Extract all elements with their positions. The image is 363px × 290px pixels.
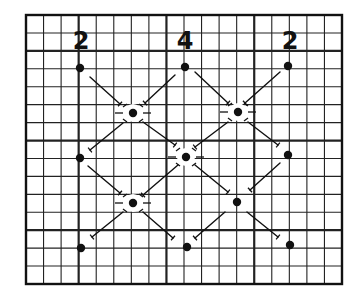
lattice-dot — [182, 153, 190, 161]
lattice-dot — [284, 151, 292, 159]
lattice-dot — [76, 64, 84, 72]
column-label-middle: 4 — [177, 29, 194, 53]
lattice-dot — [129, 109, 137, 117]
column-label-left: 2 — [73, 29, 90, 53]
lattice-dot — [233, 198, 241, 206]
lattice-dot — [77, 244, 85, 252]
lattice-dot — [181, 63, 189, 71]
lattice-dot — [76, 154, 84, 162]
lattice-dot — [183, 243, 191, 251]
lattice-dot — [286, 241, 294, 249]
lattice-dot — [284, 62, 292, 70]
lattice-dot — [234, 108, 242, 116]
lattice-dot — [129, 199, 137, 207]
column-label-right: 2 — [282, 29, 299, 53]
